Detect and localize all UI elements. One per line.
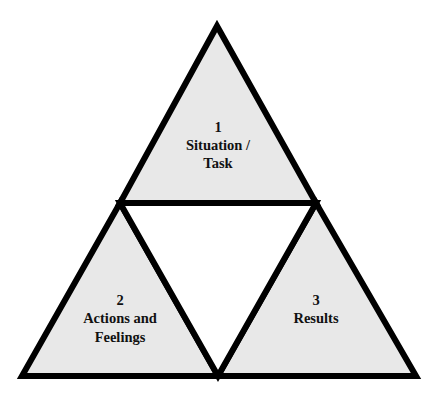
label-task: Task: [203, 155, 233, 171]
label-results: Results: [293, 310, 338, 326]
label-number-1: 1: [214, 119, 221, 135]
triangle-situation-task: [120, 26, 316, 203]
label-number-3: 3: [312, 292, 319, 308]
label-number-2: 2: [116, 292, 123, 308]
label-actions-and: Actions and: [83, 310, 157, 326]
label-feelings: Feelings: [95, 329, 146, 345]
label-situation: Situation /: [186, 137, 251, 153]
triangle-diagram: 1 Situation / Task 2 Actions and Feeling…: [0, 0, 437, 398]
